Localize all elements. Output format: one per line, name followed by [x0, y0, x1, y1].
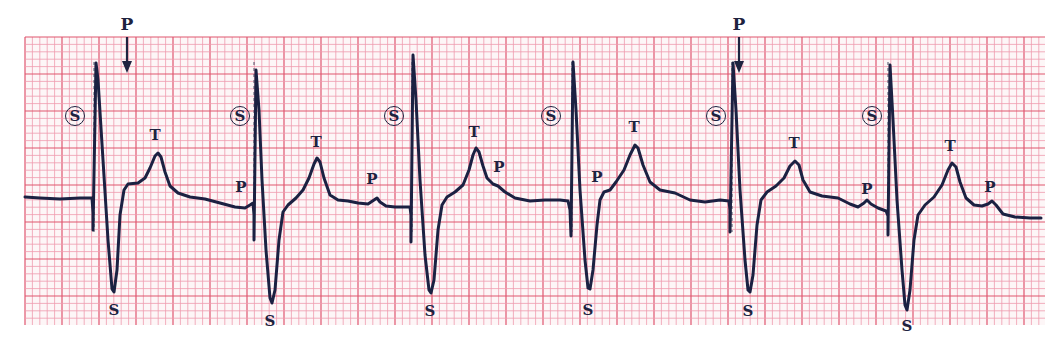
arrow-label: P: [733, 14, 746, 34]
wave-label-p: P: [861, 180, 872, 198]
wave-label-s: S: [109, 301, 120, 319]
wave-label-s: S: [902, 317, 913, 335]
wave-label-t: T: [468, 123, 480, 141]
pacing-label-text: S: [711, 107, 722, 125]
pacing-label-text: S: [70, 107, 81, 125]
wave-label-s: S: [743, 302, 754, 320]
pacing-label-text: S: [235, 107, 246, 125]
wave-label-s: S: [425, 302, 436, 320]
wave-label-t: T: [149, 126, 161, 144]
wave-label-s: S: [583, 301, 594, 319]
wave-label-t: T: [628, 118, 640, 136]
pacing-label-text: S: [867, 107, 878, 125]
wave-label-t: T: [310, 133, 322, 151]
wave-label-p: P: [591, 168, 602, 186]
wave-label-p: P: [493, 158, 504, 176]
wave-label-p: P: [235, 178, 246, 196]
arrow-label: P: [121, 14, 134, 34]
ecg-strip: PP SSSSSS TPSTPSTPSPTSTPSTPS: [0, 0, 1062, 343]
wave-label-t: T: [944, 137, 956, 155]
wave-label-t: T: [788, 134, 800, 152]
wave-label-s: S: [265, 312, 276, 330]
wave-label-p: P: [366, 170, 377, 188]
pacing-label-text: S: [546, 107, 557, 125]
wave-label-p: P: [984, 178, 995, 196]
pacing-label-text: S: [389, 107, 400, 125]
